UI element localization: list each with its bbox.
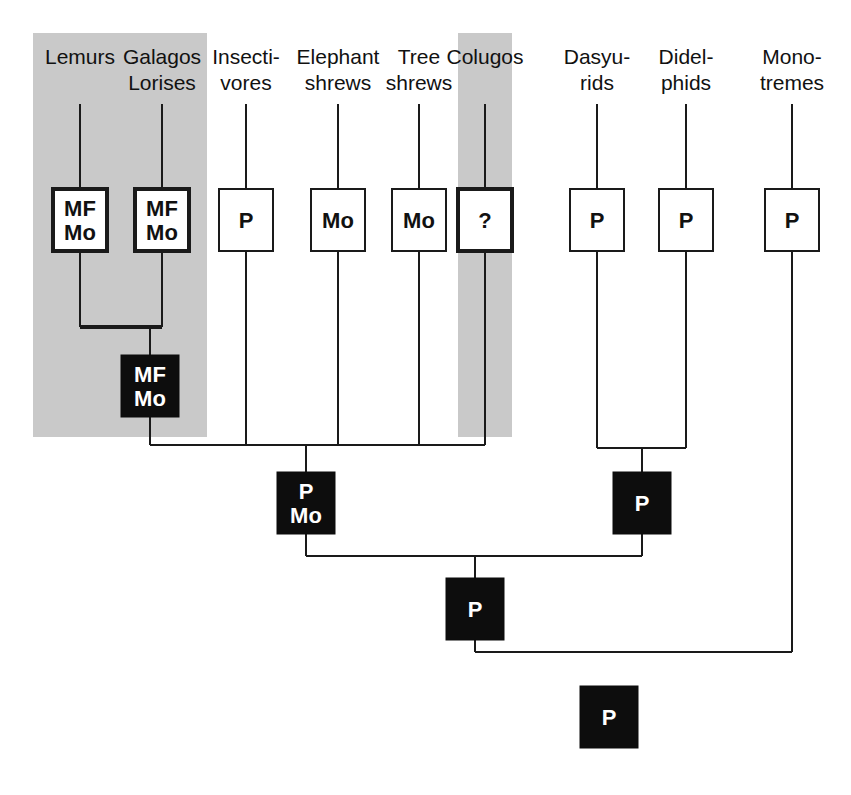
state-box-monotremes[interactable]: P (765, 189, 819, 251)
state-box-galagos-lorises[interactable]: MFMo (135, 189, 189, 251)
node-box-node-archonta-insectivora[interactable]: PMo (277, 472, 335, 534)
node-box-node-therians[interactable]: P (446, 578, 504, 640)
taxon-label-line: Dasyu- (564, 45, 631, 68)
state-box-elephant-shrews-text: Mo (322, 208, 354, 233)
node-box-node-mammals-root[interactable]: P (580, 686, 638, 748)
taxon-label-line: rids (580, 71, 614, 94)
state-box-colugos-text: ? (478, 208, 491, 233)
state-box-galagos-lorises-text: MF (146, 196, 178, 221)
state-box-lemurs[interactable]: MFMo (53, 189, 107, 251)
state-box-dasyurids[interactable]: P (570, 189, 624, 251)
taxon-label-line: shrews (386, 71, 453, 94)
node-box-node-marsupials[interactable]: P (613, 472, 671, 534)
state-box-monotremes-text: P (785, 208, 800, 233)
state-box-insectivores-text: P (239, 208, 254, 233)
state-box-tree-shrews[interactable]: Mo (392, 189, 446, 251)
node-box-node-primates[interactable]: MFMo (121, 355, 179, 417)
taxon-label-line: Colugos (446, 45, 523, 68)
state-box-tree-shrews-text: Mo (403, 208, 435, 233)
taxon-label-line: Didel- (659, 45, 714, 68)
node-box-node-mammals-root-text: P (602, 705, 617, 730)
state-box-didelphids[interactable]: P (659, 189, 713, 251)
taxon-label-line: tremes (760, 71, 824, 94)
taxon-label-line: Lemurs (45, 45, 115, 68)
taxon-label-line: Lorises (128, 71, 196, 94)
taxon-label-tree-shrews: Treeshrews (386, 45, 453, 94)
node-box-node-therians-text: P (468, 597, 483, 622)
cladogram-canvas: LemursGalagosLorisesInsecti-voresElephan… (0, 0, 851, 795)
node-box-node-archonta-insectivora-text: P (299, 479, 314, 504)
node-box-node-primates-text: MF (134, 362, 166, 387)
taxon-label-lemurs: Lemurs (45, 45, 115, 68)
state-box-insectivores[interactable]: P (219, 189, 273, 251)
state-box-lemurs-text: Mo (64, 220, 96, 245)
node-box-node-marsupials-text: P (635, 491, 650, 516)
state-box-colugos[interactable]: ? (458, 189, 512, 251)
state-box-didelphids-text: P (679, 208, 694, 233)
taxon-label-colugos: Colugos (446, 45, 523, 68)
taxon-label-line: Mono- (762, 45, 822, 68)
taxon-label-line: Galagos (123, 45, 201, 68)
taxon-label-insectivores: Insecti-vores (212, 45, 280, 94)
state-box-dasyurids-text: P (590, 208, 605, 233)
taxon-label-line: Elephant (297, 45, 380, 68)
node-box-node-archonta-insectivora-text: Mo (290, 503, 322, 528)
state-box-galagos-lorises-text: Mo (146, 220, 178, 245)
taxon-label-line: vores (220, 71, 271, 94)
state-box-elephant-shrews[interactable]: Mo (311, 189, 365, 251)
taxon-label-line: shrews (305, 71, 372, 94)
taxon-label-dasyurids: Dasyu-rids (564, 45, 631, 94)
taxon-label-elephant-shrews: Elephantshrews (297, 45, 380, 94)
taxon-label-line: phids (661, 71, 711, 94)
state-box-lemurs-text: MF (64, 196, 96, 221)
taxon-label-didelphids: Didel-phids (659, 45, 714, 94)
node-box-node-primates-text: Mo (134, 386, 166, 411)
taxon-label-monotremes: Mono-tremes (760, 45, 824, 94)
cladogram-figure: LemursGalagosLorisesInsecti-voresElephan… (0, 0, 851, 795)
taxon-label-line: Insecti- (212, 45, 280, 68)
taxon-label-line: Tree (398, 45, 440, 68)
